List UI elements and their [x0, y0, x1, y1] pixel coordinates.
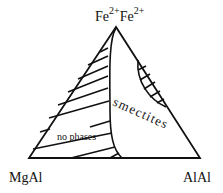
apex-base1: Fe	[95, 9, 109, 24]
apex-sup1: 2+	[109, 5, 120, 16]
phase-boundary-curve	[110, 28, 122, 158]
triangle-outline	[29, 27, 200, 158]
vertex-label-bottom-right: AlAl	[183, 170, 211, 186]
ternary-diagram	[0, 0, 223, 193]
vertex-label-bottom-left: MgAl	[9, 170, 42, 186]
apex-sup2: 2+	[134, 5, 145, 16]
apex-base2: Fe	[120, 9, 134, 24]
vertex-label-top: Fe2+Fe2+	[95, 6, 144, 25]
region-label-no-phases: no phases	[57, 131, 96, 142]
